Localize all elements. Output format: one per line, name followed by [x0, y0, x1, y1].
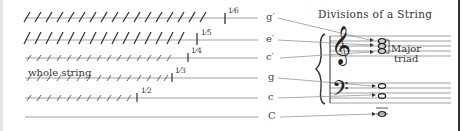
triad-line-2: triad	[391, 54, 421, 64]
note-label-c-prime: c′	[266, 51, 274, 62]
fraction-label-half: 1⁄2	[141, 86, 152, 95]
note-label-C: C	[268, 110, 276, 121]
note-label-e-prime: e′	[266, 33, 274, 44]
diagram-title: Divisions of a String	[318, 8, 432, 20]
treble-clef-icon: 𝄞	[331, 24, 351, 64]
fraction-label-third: 1⁄3	[175, 66, 186, 75]
divisions-of-string-diagram: Divisions of a String 1⁄6 1⁄5 1⁄4 1⁄3 1⁄…	[0, 0, 463, 131]
fraction-label-fifth: 1⁄5	[201, 28, 212, 37]
bass-clef-icon: 𝄢	[332, 76, 349, 106]
major-triad-label: Major triad	[391, 44, 421, 64]
note-label-g: g	[268, 71, 274, 82]
fraction-label-quarter: 1⁄4	[191, 46, 202, 55]
whole-string-label: whole string	[28, 67, 91, 78]
note-label-c: c	[268, 91, 274, 102]
note-label-g-prime: g′	[266, 11, 275, 22]
fraction-label-sixth: 1⁄6	[228, 6, 239, 15]
